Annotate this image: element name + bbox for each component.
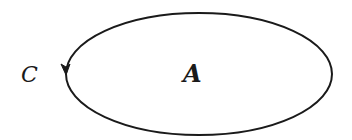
region-label: A bbox=[183, 62, 202, 86]
direction-arrow-icon bbox=[61, 64, 70, 75]
closed-curve-ellipse bbox=[0, 0, 352, 140]
diagram: C A bbox=[0, 0, 352, 140]
curve-label: C bbox=[21, 64, 38, 86]
